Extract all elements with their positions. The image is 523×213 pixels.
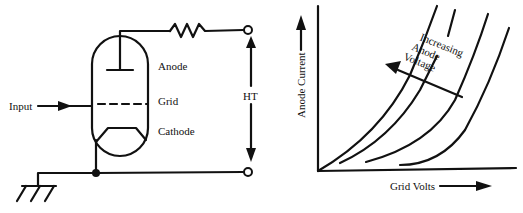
anode-resistor (170, 24, 243, 37)
circuit: Input Anode Grid Cathode HT (9, 24, 258, 201)
input-label: Input (9, 100, 32, 112)
curve-2-upper (448, 10, 455, 36)
valve-diagram: Input Anode Grid Cathode HT (0, 0, 523, 213)
arrow-up-icon (246, 36, 256, 48)
ht-label: HT (243, 90, 258, 102)
bottom-rail (96, 172, 243, 173)
cathode-electrode (96, 128, 146, 142)
input-arrow-icon (58, 101, 72, 111)
x-axis-label: Grid Volts (390, 180, 435, 192)
ground-icon (17, 186, 54, 201)
x-axis-arrow-icon (476, 181, 492, 191)
y-axis-label: Anode Current (295, 52, 307, 118)
cathode-label: Cathode (158, 125, 195, 137)
grid-label: Grid (158, 95, 179, 107)
increasing-arrow-shaft (398, 70, 462, 97)
curve-1 (318, 6, 437, 171)
ht-positive-terminal (244, 26, 252, 34)
characteristic-graph: Anode Current Grid Volts Increasing Anod… (295, 6, 516, 192)
ht-negative-terminal (244, 168, 252, 176)
increasing-arrow-icon (385, 61, 401, 74)
y-axis-arrow-icon (296, 15, 306, 30)
arrow-down-icon (246, 148, 256, 162)
x-axis (318, 168, 516, 171)
anode-label: Anode (158, 60, 187, 72)
ground-lead (38, 173, 96, 186)
